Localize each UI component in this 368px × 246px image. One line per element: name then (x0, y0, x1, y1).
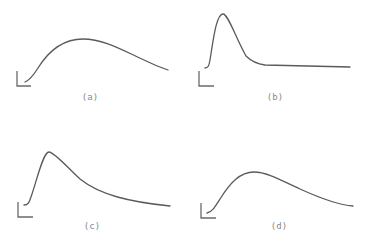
panel-b: (b) (199, 14, 350, 102)
panel-d: (d) (201, 172, 353, 231)
axis-corner-d (201, 203, 216, 218)
curve-d (207, 172, 353, 213)
panel-c: (c) (18, 152, 170, 231)
axis-corner-b (199, 71, 214, 86)
figure-four-panel-curves: (a) (b) (c) (d) (0, 0, 368, 246)
panel-label-b: (b) (267, 92, 283, 102)
panel-label-c: (c) (84, 221, 100, 231)
curve-a (25, 39, 168, 82)
curve-b (205, 14, 350, 68)
panel-label-d: (d) (271, 221, 287, 231)
curve-c (24, 152, 170, 206)
panel-a: (a) (17, 39, 168, 102)
panel-label-a: (a) (82, 92, 98, 102)
axis-corner-a (17, 71, 31, 86)
